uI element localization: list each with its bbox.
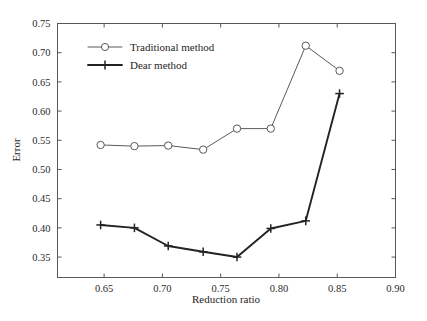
legend-marker-circle-icon — [101, 43, 108, 50]
y-tick-label: 0.70 — [32, 47, 50, 58]
data-point-marker — [233, 125, 240, 132]
y-tick-label: 0.55 — [32, 135, 50, 146]
y-axis-tick-labels: 0.350.400.450.500.550.600.650.700.75 — [32, 18, 50, 263]
x-tick-label: 0.85 — [328, 283, 346, 294]
legend-label-dear: Dear method — [130, 59, 188, 71]
x-tick-label: 0.70 — [153, 283, 171, 294]
y-tick-label: 0.50 — [32, 164, 50, 175]
x-tick-label: 0.65 — [95, 283, 113, 294]
y-tick-label: 0.40 — [32, 223, 50, 234]
chart-canvas: 0.650.700.750.800.850.90 0.350.400.450.5… — [0, 0, 427, 321]
data-point-marker — [302, 42, 309, 49]
x-axis-title: Reduction ratio — [192, 293, 261, 305]
x-tick-label: 0.80 — [270, 283, 288, 294]
data-point-marker — [336, 67, 343, 74]
x-tick-label: 0.90 — [386, 283, 404, 294]
y-tick-label: 0.45 — [32, 193, 50, 204]
data-point-marker — [97, 141, 104, 148]
y-tick-label: 0.60 — [32, 106, 50, 117]
y-axis-title: Error — [10, 138, 22, 162]
data-point-marker — [199, 146, 206, 153]
legend-label-traditional: Traditional method — [130, 41, 215, 53]
y-tick-label: 0.65 — [32, 77, 50, 88]
data-point-marker — [165, 142, 172, 149]
chart-figure: 0.650.700.750.800.850.90 0.350.400.450.5… — [0, 0, 427, 321]
y-tick-label: 0.35 — [32, 252, 50, 263]
x-tick-label: 0.75 — [211, 283, 229, 294]
y-tick-label: 0.75 — [32, 18, 50, 29]
data-point-marker — [267, 125, 274, 132]
data-point-marker — [131, 142, 138, 149]
